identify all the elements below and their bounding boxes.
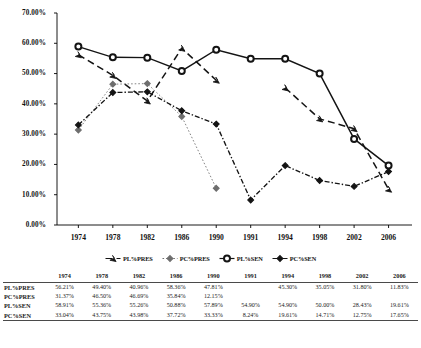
data-point-marker [317,71,323,77]
table-cell: 55.26% [120,301,157,310]
table-cell: 45.30% [269,282,306,292]
data-point-marker [248,197,254,203]
table-header-row: 1974197819821986199019911994199820022006 [3,272,418,282]
x-axis-tick-label: 2006 [369,233,409,242]
table-cell: 11.83% [381,282,418,292]
legend-item-pc-pres[interactable]: PC%PRES [162,254,210,263]
legend-label: PC%SEN [290,255,316,262]
chart-page: 70.00%60.00%50.00%40.00%30.00%20.00%10.0… [0,0,421,348]
table-cell: 33.04% [46,311,83,321]
table-column-header: 1991 [232,272,269,282]
plot-svg [0,0,421,250]
y-axis-tick-label: 20.00% [2,160,46,168]
series-pl-sen [75,44,391,169]
table-column-header: 1986 [158,272,195,282]
data-point-marker [75,52,81,58]
y-axis-tick-label: 30.00% [2,130,46,138]
table-cell: 40.96% [120,282,157,292]
table-cell: 55.36% [83,301,120,310]
data-point-marker [110,54,116,60]
table-cell: 33.33% [195,311,232,321]
table-cell: 17.65% [381,311,418,321]
data-point-marker [282,163,288,169]
data-point-marker [282,56,288,62]
y-axis-tick-label: 40.00% [2,100,46,108]
data-point-marker [213,121,219,127]
data-point-marker [144,89,150,95]
table-cell [344,292,381,301]
table-cell: 12.75% [344,311,381,321]
table-cell: 12.15% [195,292,232,301]
table-cell [306,292,343,301]
series-line [78,92,388,200]
legend-item-pl-pres[interactable]: PL%PRES [105,254,153,263]
table-row-header: PL%SEN [3,301,46,310]
data-point-marker [351,183,357,189]
table-cell: 19.61% [381,301,418,310]
data-point-marker [385,186,391,192]
y-axis-tick-label: 60.00% [2,39,46,47]
table-cell [232,282,269,292]
legend-marker [277,255,283,261]
data-point-marker [386,163,392,169]
y-axis-tick-label: 70.00% [2,9,46,17]
table-column-header: 1982 [120,272,157,282]
table-row: PL%PRES56.21%49.40%40.96%58.36%47.81%45.… [3,282,418,292]
table-cell: 56.21% [46,282,83,292]
table-cell: 37.72% [158,311,195,321]
table-cell: 46.69% [120,292,157,301]
table-column-header: 1998 [306,272,343,282]
table-cell: 31.37% [46,292,83,301]
series-line [78,47,388,166]
table-cell: 14.71% [306,311,343,321]
data-point-marker [179,68,185,74]
table-cell: 46.50% [83,292,120,301]
data-point-marker [179,45,185,51]
table-column-header: 1994 [269,272,306,282]
table-cell: 28.43% [344,301,381,310]
y-axis-tick-label: 50.00% [2,69,46,77]
data-point-marker [317,178,323,184]
data-point-marker [282,85,288,91]
table-cell: 47.81% [195,282,232,292]
table-cell [232,292,269,301]
table-row-header: PL%PRES [3,282,46,292]
table-cell: 35.05% [306,282,343,292]
table-cell: 49.40% [83,282,120,292]
legend-item-pc-sen[interactable]: PC%SEN [272,254,316,263]
table-cell: 43.98% [120,311,157,321]
table-column-header: 1978 [83,272,120,282]
line-chart: 70.00%60.00%50.00%40.00%30.00%20.00%10.0… [0,0,421,250]
data-point-marker [351,136,357,142]
table-row: PC%PRES31.37%46.50%46.69%35.84%12.15% [3,292,418,301]
y-axis-tick-label: 0.00% [2,221,46,229]
table-cell: 50.88% [158,301,195,310]
data-table-container: 1974197819821986199019911994199820022006… [3,272,418,321]
table-column-header: 1974 [46,272,83,282]
table-cell: 19.61% [269,311,306,321]
table-cell: 54.90% [232,301,269,310]
legend-item-pl-sen[interactable]: PL%SEN [219,254,263,263]
series-pc-pres [75,81,219,191]
y-axis-tick-label: 10.00% [2,191,46,199]
table-cell: 43.75% [83,311,120,321]
data-point-marker [213,47,219,53]
table-column-header: 1990 [195,272,232,282]
legend-label: PL%SEN [237,255,263,262]
circle-marker [219,254,235,263]
data-point-marker [144,55,150,61]
data-point-marker [386,169,392,175]
legend-marker [224,255,230,261]
table-row: PL%SEN58.91%55.36%55.26%50.88%57.89%54.9… [3,301,418,310]
table-cell [269,292,306,301]
series-line [285,88,388,189]
table-column-header: 2006 [381,272,418,282]
table-cell [381,292,418,301]
table-body: PL%PRES56.21%49.40%40.96%58.36%47.81%45.… [3,282,418,321]
data-point-marker [179,108,185,114]
table-cell: 58.36% [158,282,195,292]
table-cell: 31.80% [344,282,381,292]
table-cell: 8.24% [232,311,269,321]
table-header: 1974197819821986199019911994199820022006 [3,272,418,282]
legend-label: PC%PRES [180,255,210,262]
